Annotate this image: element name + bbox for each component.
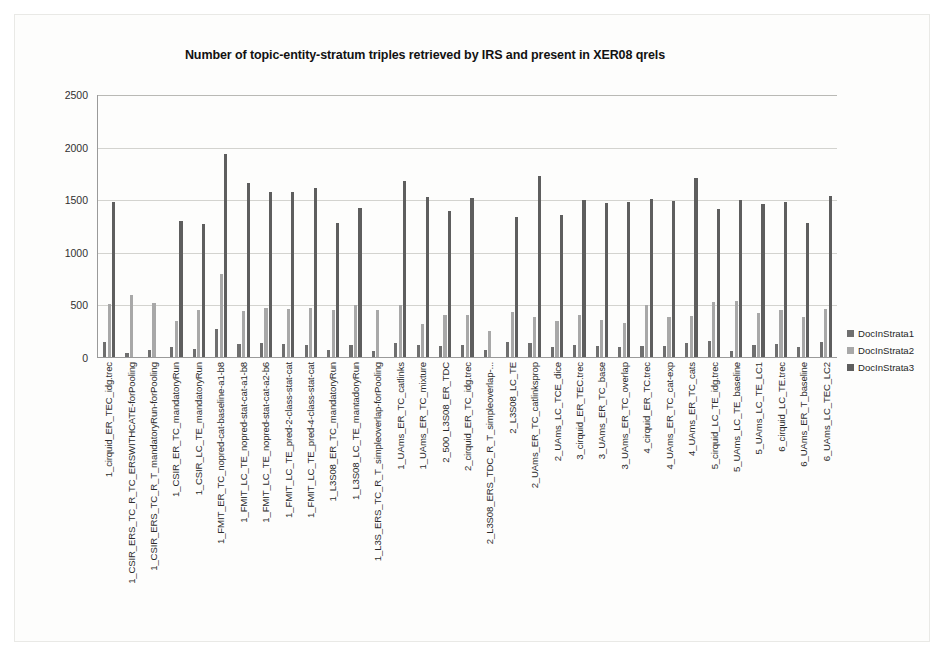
x-axis-tick-label: 2_500_L3S08_ER_TDC — [439, 362, 450, 463]
plot-area — [97, 95, 837, 358]
bar-docinstrata3 — [672, 201, 675, 357]
x-axis-tick-label: 1_CSIR_ER_TC_mandatoryRun — [170, 362, 181, 497]
bar-docinstrata1 — [170, 347, 173, 357]
bar-docinstrata1 — [618, 347, 621, 357]
bar-group — [523, 95, 545, 357]
x-axis-label-cell: 4_UAms_ER_TC_cat-exp — [658, 360, 680, 600]
bar-docinstrata2 — [130, 295, 133, 357]
x-axis-tick-label: 1_UAms_ER_TC_catlinks — [394, 362, 405, 470]
bar-docinstrata3 — [314, 188, 317, 357]
x-axis-label-cell: 4_cirquid_ER_TC.trec — [635, 360, 657, 600]
legend-item[interactable]: DocInStrata3 — [847, 359, 947, 376]
x-axis-tick-label: 2_L3S08_LC_TE — [506, 362, 517, 434]
x-axis-tick-label: 6_UAms_ER_T_baseline — [798, 362, 809, 467]
x-axis-tick-label: 3_UAms_ER_TC_base — [596, 362, 607, 459]
bar-docinstrata2 — [287, 309, 290, 357]
x-axis-labels: 1_cirquid_ER_TEC_idg.trec1_CSIR_ERS_TC_R… — [97, 360, 837, 600]
bar-docinstrata2 — [242, 311, 245, 357]
bar-docinstrata2 — [175, 321, 178, 357]
x-axis-tick-label: 2_cirquid_ER_TC_idg.trec — [461, 362, 472, 471]
bar-group — [546, 95, 568, 357]
bar-docinstrata3 — [247, 183, 250, 357]
bar-group — [725, 95, 747, 357]
bar-docinstrata2 — [690, 316, 693, 357]
bar-docinstrata2 — [735, 301, 738, 357]
bar-docinstrata2 — [555, 321, 558, 357]
x-axis-label-cell: 5_cirquid_LC_TE_idg.trec — [702, 360, 724, 600]
x-axis-tick-label: 3_UAms_ER_TC_overlap — [618, 362, 629, 469]
y-axis-tick-label: 1500 — [65, 194, 88, 206]
bar-docinstrata1 — [461, 345, 464, 357]
x-axis-tick-label: 4_UAms_ER_TC_cat-exp — [663, 362, 674, 469]
bar-docinstrata1 — [820, 342, 823, 357]
bar-docinstrata2 — [511, 312, 514, 357]
bar-docinstrata3 — [739, 200, 742, 357]
bar-docinstrata3 — [403, 181, 406, 357]
legend-item[interactable]: DocInStrata2 — [847, 342, 947, 359]
legend-color-swatch — [847, 347, 854, 354]
bar-docinstrata1 — [148, 350, 151, 357]
bar-docinstrata2 — [376, 310, 379, 357]
y-axis-tick-label: 500 — [70, 299, 88, 311]
bar-group — [322, 95, 344, 357]
x-axis-label-cell: 2_L3S08_LC_TE — [501, 360, 523, 600]
bar-docinstrata1 — [394, 343, 397, 357]
bar-group — [747, 95, 769, 357]
y-axis-ticks: 05001000150020002500 — [15, 95, 97, 358]
bar-docinstrata3 — [806, 223, 809, 357]
bar-group — [188, 95, 210, 357]
legend-item[interactable]: DocInStrata1 — [847, 325, 947, 342]
bar-docinstrata1 — [193, 349, 196, 357]
bar-group — [277, 95, 299, 357]
bar-docinstrata2 — [309, 308, 312, 357]
legend-label: DocInStrata3 — [858, 362, 914, 373]
bar-docinstrata2 — [399, 305, 402, 357]
x-axis-label-cell: 1_FMIT_LC_TE_pred-2-class-stat-cat — [276, 360, 298, 600]
bar-docinstrata1 — [596, 346, 599, 357]
x-axis-tick-label: 1_FMIT_LC_TE_pred-2-class-stat-cat — [282, 362, 293, 518]
bar-docinstrata3 — [515, 217, 518, 357]
bar-docinstrata3 — [224, 154, 227, 357]
bar-docinstrata2 — [757, 313, 760, 357]
bar-group — [501, 95, 523, 357]
bar-group — [613, 95, 635, 357]
bar-docinstrata1 — [775, 344, 778, 357]
x-axis-tick-label: 1_CSIR_ERS_TC_R_T_mandatoryRun-forPoolin… — [148, 362, 159, 571]
bar-docinstrata3 — [650, 199, 653, 357]
x-axis-tick-label: 4_cirquid_ER_TC.trec — [641, 362, 652, 453]
bar-docinstrata2 — [712, 302, 715, 357]
bar-group — [344, 95, 366, 357]
bar-docinstrata2 — [824, 309, 827, 357]
x-axis-label-cell: 1_FMIT_LC_TE_nopred-stat-cat-a2-b6 — [254, 360, 276, 600]
x-axis-label-cell: 1_CSIR_ERS_TC_R_T_mandatoryRun-forPoolin… — [142, 360, 164, 600]
bar-group — [165, 95, 187, 357]
legend-color-swatch — [847, 330, 854, 337]
bar-docinstrata2 — [220, 274, 223, 357]
y-axis-tick-label: 0 — [82, 352, 88, 364]
bar-docinstrata2 — [421, 324, 424, 357]
bar-docinstrata1 — [506, 342, 509, 357]
x-axis-tick-label: 5_UAms_LC_TE_baseline — [731, 362, 742, 472]
bar-group — [143, 95, 165, 357]
bar-docinstrata2 — [578, 315, 581, 357]
x-axis-label-cell: 2_cirquid_ER_TC_idg.trec — [456, 360, 478, 600]
bar-docinstrata1 — [349, 345, 352, 357]
bar-docinstrata1 — [417, 345, 420, 357]
bar-docinstrata1 — [125, 353, 128, 357]
bar-docinstrata3 — [605, 203, 608, 357]
x-axis-tick-label: 2_UAms_LC_TCE_dice — [551, 362, 562, 461]
bar-docinstrata3 — [448, 211, 451, 357]
bar-docinstrata1 — [730, 351, 733, 357]
bar-docinstrata1 — [797, 347, 800, 357]
bar-docinstrata3 — [202, 224, 205, 357]
x-axis-label-cell: 1_FMIT_ER_TC_nopred-cat-baseline-a1-b8 — [209, 360, 231, 600]
bar-docinstrata2 — [197, 310, 200, 357]
x-axis-label-cell: 6_cirquid_LC_TE.trec — [770, 360, 792, 600]
chart-container: Number of topic-entity-stratum triples r… — [14, 14, 930, 642]
bar-group — [479, 95, 501, 357]
bar-docinstrata1 — [752, 345, 755, 357]
bar-docinstrata1 — [685, 343, 688, 357]
x-axis-tick-label: 1_L3S08_LC_TE_mantadoryRun — [349, 362, 360, 500]
bar-docinstrata3 — [358, 208, 361, 357]
x-axis-tick-label: 1_CSIR_LC_TE_mandatoryRun — [192, 362, 203, 495]
